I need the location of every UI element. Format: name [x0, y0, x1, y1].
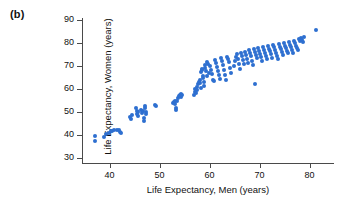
data-point	[154, 104, 158, 108]
data-point	[174, 108, 178, 112]
data-point	[212, 79, 216, 83]
data-point	[260, 59, 264, 63]
x-tick-label: 70	[248, 170, 272, 180]
data-point	[119, 131, 123, 135]
data-point	[93, 134, 97, 138]
y-tick-mark	[77, 89, 82, 90]
data-point	[265, 57, 269, 61]
x-tick-mark	[110, 163, 111, 168]
y-tick-mark	[77, 66, 82, 67]
y-tick-label: 70	[54, 60, 74, 70]
data-point	[238, 67, 242, 71]
y-tick-mark	[77, 43, 82, 44]
data-point	[228, 66, 232, 70]
data-point	[215, 65, 219, 69]
x-tick-mark	[160, 163, 161, 168]
data-point	[227, 60, 231, 64]
data-point	[209, 68, 213, 72]
data-point	[301, 40, 305, 44]
x-tick-label: 50	[148, 170, 172, 180]
y-tick-mark	[77, 20, 82, 21]
data-point	[302, 35, 306, 39]
x-tick-label: 60	[198, 170, 222, 180]
data-point	[224, 78, 228, 82]
data-point	[281, 53, 285, 57]
data-point	[251, 63, 255, 67]
x-tick-mark	[260, 163, 261, 168]
y-tick-label: 50	[54, 106, 74, 116]
data-point	[246, 61, 250, 65]
data-point	[249, 54, 253, 58]
x-tick-label: 40	[98, 170, 122, 180]
y-tick-label: 60	[54, 83, 74, 93]
data-point	[180, 93, 184, 97]
data-point	[237, 62, 241, 66]
data-point	[314, 28, 318, 32]
y-tick-label: 40	[54, 129, 74, 139]
data-point	[210, 72, 214, 76]
scatter-plot-figure: (b) Life Expectancy, Women (years) Life …	[0, 0, 341, 205]
x-axis-title: Life Expectancy, Men (years)	[82, 184, 334, 195]
data-point	[130, 113, 134, 117]
y-tick-label: 30	[54, 152, 74, 162]
data-point	[235, 52, 239, 56]
data-point	[218, 77, 222, 81]
y-tick-mark	[77, 158, 82, 159]
x-tick-label: 80	[298, 170, 322, 180]
y-tick-mark	[77, 112, 82, 113]
data-point	[136, 114, 140, 118]
data-point	[291, 51, 295, 55]
y-tick-mark	[77, 135, 82, 136]
data-point	[223, 73, 227, 77]
data-point	[232, 64, 236, 68]
data-point	[270, 56, 274, 60]
x-tick-mark	[310, 163, 311, 168]
data-point	[255, 56, 259, 60]
data-point	[253, 82, 257, 86]
data-point	[175, 99, 179, 103]
data-point	[222, 68, 226, 72]
x-axis-line	[82, 163, 334, 164]
y-axis-title: Life Expectancy, Women (years)	[102, 7, 113, 167]
data-point	[229, 71, 233, 75]
y-tick-label: 90	[54, 14, 74, 24]
y-tick-label: 80	[54, 37, 74, 47]
panel-label-b: (b)	[10, 8, 25, 20]
data-point	[296, 48, 300, 52]
x-tick-mark	[210, 163, 211, 168]
data-point	[241, 58, 245, 62]
data-point	[276, 57, 280, 61]
data-point	[129, 117, 133, 121]
